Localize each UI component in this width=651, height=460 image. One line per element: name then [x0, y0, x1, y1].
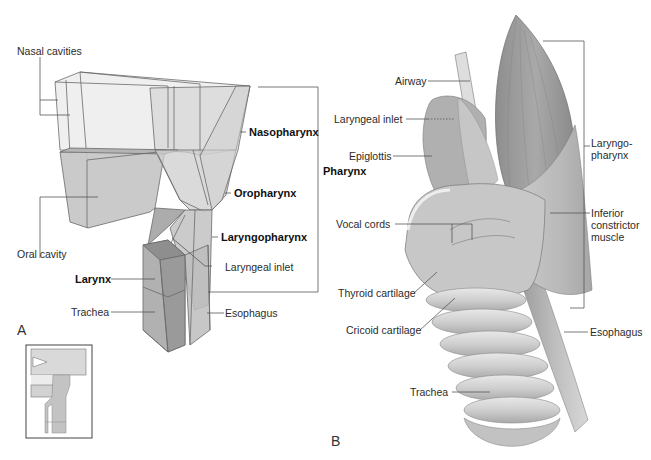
figure-artwork — [0, 0, 651, 460]
label-laryngopharynx-line1: Laryngo- — [591, 137, 632, 149]
label-inferior-constrictor-line1: Inferior — [591, 207, 639, 219]
label-esophagus-b: Esophagus — [590, 326, 643, 338]
label-vocal-cords: Vocal cords — [336, 218, 390, 230]
label-inferior-constrictor-line3: muscle — [591, 231, 639, 243]
label-laryngeal-inlet-a: Laryngeal inlet — [225, 261, 293, 273]
panel-letter-b: B — [331, 435, 340, 447]
label-epiglottis: Epiglottis — [349, 150, 392, 162]
anatomy-figure: Nasal cavities Nasopharynx Pharynx Oroph… — [0, 0, 651, 460]
label-airway: Airway — [395, 75, 427, 87]
label-nasal-cavities: Nasal cavities — [17, 45, 82, 57]
label-oropharynx: Oropharynx — [234, 187, 296, 199]
panel-b-illustration — [405, 15, 592, 446]
label-oral-cavity: Oral cavity — [17, 248, 67, 260]
label-nasopharynx: Nasopharynx — [249, 126, 319, 138]
label-laryngopharynx-b: Laryngo- pharynx — [591, 137, 632, 161]
label-larynx: Larynx — [75, 273, 111, 285]
label-esophagus-a: Esophagus — [225, 307, 278, 319]
label-pharynx: Pharynx — [323, 165, 366, 177]
label-laryngeal-inlet-b: Laryngeal inlet — [334, 113, 402, 125]
label-trachea-a: Trachea — [71, 306, 109, 318]
label-thyroid-cartilage: Thyroid cartilage — [338, 287, 416, 299]
label-inferior-constrictor-muscle: Inferior constrictor muscle — [591, 207, 639, 243]
label-trachea-b: Trachea — [410, 386, 448, 398]
panel-letter-a: A — [17, 324, 26, 336]
label-laryngopharynx-line2: pharynx — [591, 149, 632, 161]
label-cricoid-cartilage: Cricoid cartilage — [346, 324, 421, 336]
inset-thumbnail — [26, 345, 92, 438]
label-laryngopharynx: Laryngopharynx — [221, 231, 307, 243]
label-inferior-constrictor-line2: constrictor — [591, 219, 639, 231]
